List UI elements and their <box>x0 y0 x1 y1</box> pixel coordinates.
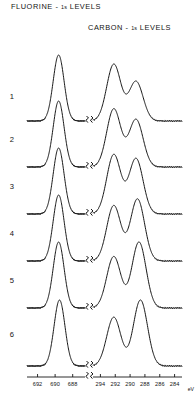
row-label-5: 5 <box>2 276 14 285</box>
axis-break-mark <box>90 303 93 310</box>
axis-break-mark <box>86 209 89 216</box>
carbon-tick-292: 292 <box>110 381 120 387</box>
axis-break-mark <box>86 361 89 368</box>
carbon-title-levels: LEVELS <box>140 23 171 32</box>
fluorine-panel-title: FLUORINE - 1s LEVELS <box>11 2 101 11</box>
axis-unit-label: eV <box>188 386 194 392</box>
row-label-4: 4 <box>2 229 14 238</box>
carbon-tick-286: 286 <box>155 381 165 387</box>
fluorine-title-orbital: 1s <box>61 4 67 10</box>
carbon-trace-3 <box>93 154 182 215</box>
fluorine-tick-690: 690 <box>50 381 60 387</box>
carbon-trace-6 <box>93 300 182 367</box>
row-label-6: 6 <box>2 330 14 339</box>
carbon-trace-4 <box>93 199 182 262</box>
carbon-tick-288: 288 <box>140 381 150 387</box>
axis-break-mark <box>90 209 93 216</box>
carbon-panel-title: CARBON - 1s LEVELS <box>88 23 171 32</box>
axis-break-mark <box>86 372 89 379</box>
fluorine-title-levels: LEVELS <box>70 2 101 11</box>
fluorine-title-dash: - <box>55 2 58 11</box>
carbon-tick-290: 290 <box>125 381 135 387</box>
fluorine-tick-688: 688 <box>68 381 78 387</box>
axis-break-mark <box>90 162 93 169</box>
carbon-title-orbital: 1s <box>131 25 137 31</box>
carbon-title-dash: - <box>126 23 129 32</box>
carbon-tick-284: 284 <box>170 381 180 387</box>
row-label-2: 2 <box>2 135 14 144</box>
axis-break-mark <box>86 303 89 310</box>
fluorine-trace-6 <box>27 300 85 367</box>
row-label-1: 1 <box>2 92 14 101</box>
axis-break-mark <box>86 162 89 169</box>
carbon-title-element: CARBON <box>88 23 123 32</box>
carbon-trace-5 <box>93 242 182 309</box>
axis-break-mark <box>90 116 93 123</box>
axis-break-mark <box>86 256 89 263</box>
axis-break-mark <box>86 116 89 123</box>
axis-break-mark <box>90 256 93 263</box>
axis-break-mark <box>90 361 93 368</box>
carbon-trace-1 <box>93 64 182 122</box>
fluorine-tick-692: 692 <box>33 381 43 387</box>
axis-break-mark <box>90 372 93 379</box>
row-label-3: 3 <box>2 182 14 191</box>
carbon-tick-294: 294 <box>96 381 106 387</box>
fluorine-trace-1 <box>27 55 85 122</box>
spectra-traces <box>0 0 195 394</box>
fluorine-trace-5 <box>27 242 85 309</box>
esca-spectra-figure: FLUORINE - 1s LEVELS CARBON - 1s LEVELS … <box>0 0 195 394</box>
fluorine-title-element: FLUORINE <box>11 2 53 11</box>
